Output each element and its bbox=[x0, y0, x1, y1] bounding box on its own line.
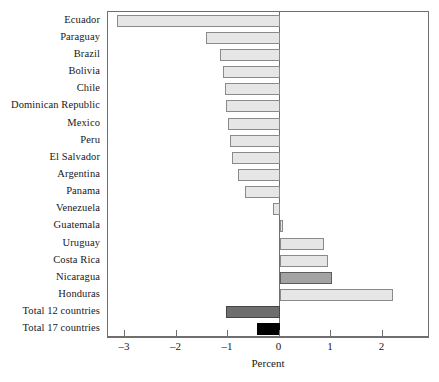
x-tick-label: –2 bbox=[161, 340, 191, 352]
category-label: Mexico bbox=[0, 117, 100, 128]
category-label: Nicaragua bbox=[0, 271, 100, 282]
x-axis-line bbox=[107, 337, 429, 338]
x-tick bbox=[279, 330, 280, 337]
bar bbox=[223, 66, 280, 78]
x-tick-label: 0 bbox=[264, 340, 294, 352]
category-label: Uruguay bbox=[0, 237, 100, 248]
x-tick-label: –3 bbox=[109, 340, 139, 352]
x-tick-label: 1 bbox=[315, 340, 345, 352]
x-axis-title: Percent bbox=[107, 357, 429, 369]
category-label: Total 17 countries bbox=[0, 322, 100, 333]
bar bbox=[225, 83, 280, 95]
bar bbox=[280, 220, 283, 232]
category-label: Argentina bbox=[0, 168, 100, 179]
bar bbox=[245, 186, 280, 198]
x-tick bbox=[330, 330, 331, 337]
category-label: Brazil bbox=[0, 48, 100, 59]
bar-chart: EcuadorParaguayBrazilBoliviaChileDominic… bbox=[0, 0, 439, 382]
category-label: Chile bbox=[0, 82, 100, 93]
bar bbox=[280, 272, 333, 284]
x-tick bbox=[124, 330, 125, 337]
category-label: Honduras bbox=[0, 288, 100, 299]
category-label: El Salvador bbox=[0, 151, 100, 162]
bar bbox=[280, 255, 328, 267]
x-axis: Percent –3–2–1012 bbox=[107, 337, 429, 382]
plot-inner bbox=[108, 12, 428, 336]
bar bbox=[280, 289, 393, 301]
category-label: Paraguay bbox=[0, 31, 100, 42]
category-label: Guatemala bbox=[0, 219, 100, 230]
x-tick bbox=[227, 330, 228, 337]
category-label: Venezuela bbox=[0, 202, 100, 213]
bar bbox=[238, 169, 279, 181]
category-label: Bolivia bbox=[0, 65, 100, 76]
category-label: Costa Rica bbox=[0, 254, 100, 265]
bar bbox=[220, 49, 280, 61]
bar bbox=[228, 118, 280, 130]
bar bbox=[226, 306, 280, 318]
bar bbox=[206, 32, 279, 44]
category-label: Ecuador bbox=[0, 14, 100, 25]
bar bbox=[273, 203, 279, 215]
x-tick-label: 2 bbox=[367, 340, 397, 352]
category-label: Dominican Republic bbox=[0, 99, 100, 110]
category-label: Peru bbox=[0, 134, 100, 145]
category-axis: EcuadorParaguayBrazilBoliviaChileDominic… bbox=[0, 11, 104, 337]
bar bbox=[117, 15, 280, 27]
x-tick bbox=[176, 330, 177, 337]
x-tick-label: –1 bbox=[212, 340, 242, 352]
bar bbox=[232, 152, 279, 164]
bar bbox=[226, 100, 280, 112]
bar bbox=[257, 323, 280, 335]
x-tick bbox=[382, 330, 383, 337]
bar bbox=[230, 135, 279, 147]
category-label: Total 12 countries bbox=[0, 305, 100, 316]
bar bbox=[280, 238, 324, 250]
category-label: Panama bbox=[0, 185, 100, 196]
plot-area bbox=[107, 11, 429, 337]
